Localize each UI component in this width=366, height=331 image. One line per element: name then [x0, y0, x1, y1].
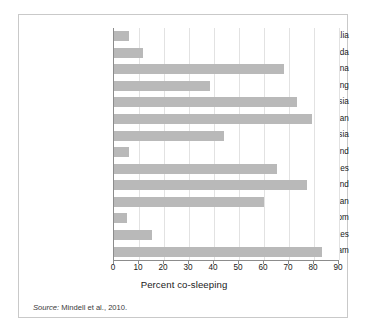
figure-panel: AustraliaCanadaChinaHong KongIndonesiaJa… — [18, 14, 348, 318]
bar — [114, 97, 297, 107]
bar-row — [114, 227, 339, 244]
x-tick-label: 80 — [308, 264, 317, 272]
x-tick-label: 10 — [133, 264, 142, 272]
bar-row — [114, 144, 339, 161]
bar — [114, 197, 264, 207]
plot-area — [113, 28, 339, 261]
x-tick-label: 20 — [158, 264, 167, 272]
bar-row — [114, 45, 339, 62]
bar — [114, 247, 322, 257]
bar — [114, 48, 143, 58]
gridline — [339, 28, 340, 260]
bar-row — [114, 161, 339, 178]
bar-row — [114, 210, 339, 227]
source-note: Source: Mindell et al., 2010. — [33, 303, 127, 312]
bar-row — [114, 243, 339, 260]
bar-row — [114, 111, 339, 128]
x-tick-label: 40 — [208, 264, 217, 272]
x-tick-label: 30 — [183, 264, 192, 272]
bar-chart: AustraliaCanadaChinaHong KongIndonesiaJa… — [19, 15, 349, 277]
x-axis-ticks: 0102030405060708090 — [113, 261, 338, 275]
bar — [114, 114, 312, 124]
bar-row — [114, 28, 339, 45]
bar — [114, 180, 307, 190]
bar — [114, 131, 224, 141]
source-citation: Mindell et al., 2010. — [59, 303, 127, 312]
bar-row — [114, 78, 339, 95]
x-axis-title: Percent co-sleeping — [19, 279, 349, 290]
x-tick-label: 50 — [233, 264, 242, 272]
bar — [114, 164, 277, 174]
bar-row — [114, 61, 339, 78]
bar — [114, 64, 284, 74]
bar — [114, 81, 210, 91]
bar — [114, 230, 152, 240]
bar-row — [114, 177, 339, 194]
bar-row — [114, 127, 339, 144]
bar-row — [114, 94, 339, 111]
x-tick-label: 60 — [258, 264, 267, 272]
source-label: Source: — [33, 303, 59, 312]
bar — [114, 213, 127, 223]
bar — [114, 31, 129, 41]
x-tick-label: 0 — [111, 264, 116, 272]
x-tick-label: 70 — [283, 264, 292, 272]
x-tick-label: 90 — [333, 264, 342, 272]
bar — [114, 147, 129, 157]
bar-row — [114, 194, 339, 211]
